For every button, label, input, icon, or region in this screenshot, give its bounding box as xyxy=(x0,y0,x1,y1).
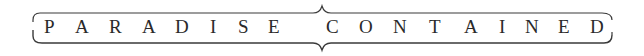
title-letter: O xyxy=(359,17,373,37)
title-letter: A xyxy=(75,17,89,37)
title-letter: I xyxy=(499,17,505,37)
title-letter: N xyxy=(393,17,407,37)
title-letter: N xyxy=(525,17,539,37)
title-letter: E xyxy=(268,17,280,37)
title-letter: C xyxy=(326,17,339,37)
banner-title: P A R A D I S E C O N T A I N E D xyxy=(0,0,644,56)
paradise-contained-banner: P A R A D I S E C O N T A I N E D xyxy=(0,0,644,56)
title-letter: D xyxy=(175,17,189,37)
title-letter: S xyxy=(238,17,249,37)
title-letter: T xyxy=(429,17,441,37)
title-letter: D xyxy=(590,17,604,37)
title-letter: A xyxy=(142,17,156,37)
title-letter: E xyxy=(558,17,570,37)
title-letter: A xyxy=(464,17,478,37)
title-letter: P xyxy=(44,17,55,37)
title-letter: I xyxy=(210,17,216,37)
title-letter: R xyxy=(109,17,122,37)
